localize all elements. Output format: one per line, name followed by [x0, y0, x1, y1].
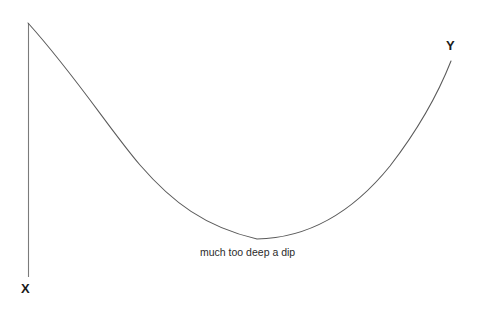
dip-curve [28, 23, 451, 239]
x-axis-label: X [21, 282, 30, 295]
dip-annotation-text: much too deep a dip [200, 247, 295, 258]
curve-diagram [0, 0, 483, 322]
sketch-canvas: X Y much too deep a dip [0, 0, 483, 322]
y-axis-label: Y [446, 39, 455, 52]
